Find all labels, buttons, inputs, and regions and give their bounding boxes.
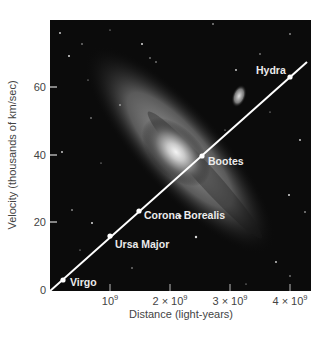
label-corona-borealis: Corona Borealis <box>144 209 225 221</box>
y-tick-60: 60 <box>34 81 46 93</box>
y-tick-20: 20 <box>34 216 46 228</box>
point-bootes <box>199 153 204 158</box>
point-ursa-major <box>107 233 112 238</box>
label-bootes: Bootes <box>208 155 244 167</box>
point-virgo <box>60 277 65 282</box>
x-tick-4e9: 4 × 109 <box>272 293 307 307</box>
y-axis-label: Velocity (thousands of km/sec) <box>6 55 20 255</box>
point-hydra <box>287 74 292 79</box>
hubble-chart: Virgo Ursa Major Corona Borealis Bootes … <box>0 0 324 339</box>
label-hydra: Hydra <box>256 64 286 76</box>
plot-area: Virgo Ursa Major Corona Borealis Bootes … <box>50 20 311 291</box>
y-tick-labels: 60 40 20 0 <box>34 81 46 296</box>
y-tick-40: 40 <box>34 149 46 161</box>
label-virgo: Virgo <box>70 276 97 288</box>
x-tick-1e9: 109 <box>102 293 118 307</box>
label-ursa-major: Ursa Major <box>115 238 169 250</box>
x-tick-3e9: 3 × 109 <box>212 293 247 307</box>
x-tick-labels: 109 2 × 109 3 × 109 4 × 109 <box>102 293 308 307</box>
y-tick-0: 0 <box>40 284 46 296</box>
x-tick-2e9: 2 × 109 <box>152 293 187 307</box>
point-corona-borealis <box>136 208 141 213</box>
x-axis-label: Distance (light-years) <box>50 308 312 320</box>
